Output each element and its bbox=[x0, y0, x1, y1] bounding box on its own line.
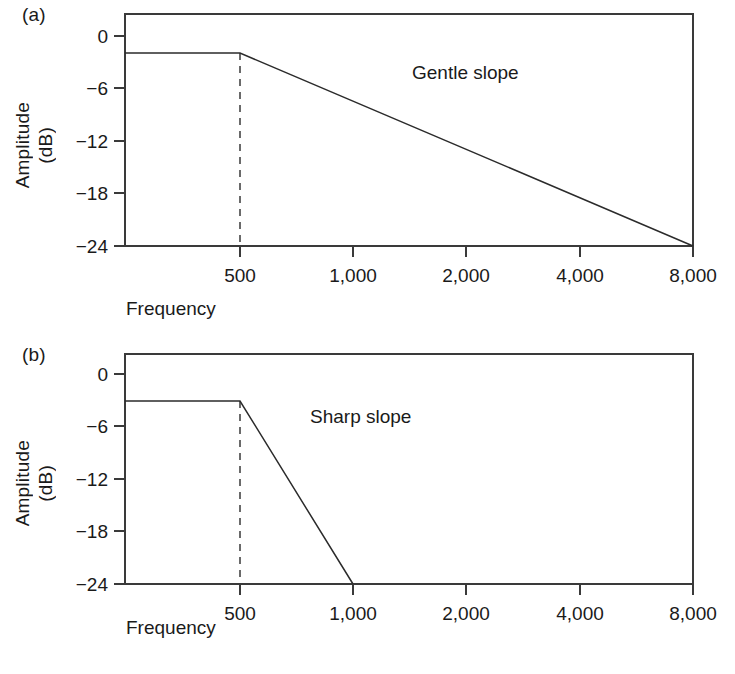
panel-b-y-ticks bbox=[114, 374, 125, 584]
panel-b-x-ticks bbox=[240, 584, 693, 595]
panel-a-x-tick-label-500: 500 bbox=[224, 265, 256, 286]
panel-a-y-tick-label-minus24: −24 bbox=[76, 236, 109, 257]
panel-a-response-curve bbox=[125, 53, 693, 246]
panel-b-y-tick-labels: 0 −6 −12 −18 −24 bbox=[76, 364, 109, 595]
panel-b-x-tick-label-2000: 2,000 bbox=[442, 603, 490, 624]
panel-a-y-tick-label-minus18: −18 bbox=[76, 183, 108, 204]
panel-a-plot: 0 −6 −12 −18 −24 500 1,000 2,000 4,000 bbox=[0, 0, 735, 340]
panel-a-y-tick-label-minus6: −6 bbox=[86, 78, 108, 99]
panel-b-y-tick-label-0: 0 bbox=[97, 364, 108, 385]
panel-b-y-tick-label-minus12: −12 bbox=[76, 469, 108, 490]
panel-b-y-tick-label-minus24: −24 bbox=[76, 574, 109, 595]
panel-a-x-ticks bbox=[240, 246, 693, 257]
panel-a-y-tick-label-0: 0 bbox=[97, 26, 108, 47]
panel-b: (b) Amplitude (dB) Frequency Sharp slope… bbox=[0, 340, 735, 674]
panel-a-x-tick-label-1000: 1,000 bbox=[329, 265, 377, 286]
panel-a-x-tick-label-8000: 8,000 bbox=[669, 265, 717, 286]
panel-b-x-tick-label-500: 500 bbox=[224, 603, 256, 624]
panel-a-x-tick-label-4000: 4,000 bbox=[556, 265, 604, 286]
panel-b-plot-frame bbox=[125, 354, 693, 584]
panel-b-y-tick-label-minus18: −18 bbox=[76, 521, 108, 542]
panel-a-x-tick-label-2000: 2,000 bbox=[442, 265, 490, 286]
panel-b-plot: 0 −6 −12 −18 −24 500 1,000 2,000 4,000 bbox=[0, 340, 735, 674]
panel-b-x-tick-label-8000: 8,000 bbox=[669, 603, 717, 624]
figure-container: (a) Amplitude (dB) Frequency Gentle slop… bbox=[0, 0, 735, 674]
panel-b-x-tick-label-4000: 4,000 bbox=[556, 603, 604, 624]
panel-a-plot-frame bbox=[125, 14, 693, 246]
panel-a-y-tick-label-minus12: −12 bbox=[76, 131, 108, 152]
panel-a-x-tick-labels: 500 1,000 2,000 4,000 8,000 bbox=[224, 265, 717, 286]
panel-b-y-tick-label-minus6: −6 bbox=[86, 416, 108, 437]
panel-a-y-ticks bbox=[114, 36, 125, 246]
panel-b-response-curve bbox=[125, 401, 353, 584]
panel-b-x-tick-label-1000: 1,000 bbox=[329, 603, 377, 624]
panel-a-y-tick-labels: 0 −6 −12 −18 −24 bbox=[76, 26, 109, 257]
panel-a: (a) Amplitude (dB) Frequency Gentle slop… bbox=[0, 0, 735, 340]
panel-b-x-tick-labels: 500 1,000 2,000 4,000 8,000 bbox=[224, 603, 717, 624]
